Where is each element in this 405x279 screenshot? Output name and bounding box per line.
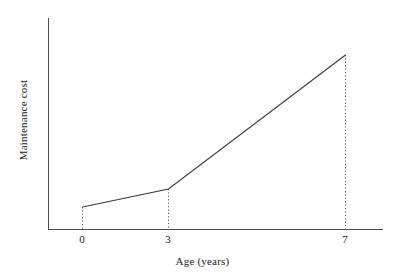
x-tick-label-0: 0 [67,233,97,245]
maintenance-cost-line [83,55,346,207]
x-tick-label-3: 3 [153,233,183,245]
x-axis-title: Age (years) [0,255,405,267]
y-axis-title: Maintenance cost [17,80,29,160]
y-axis-title-container: Maintenance cost [0,0,46,240]
x-tick-label-7: 7 [330,233,360,245]
chart-figure: 0 3 7 Age (years) Maintenance cost [0,0,405,279]
